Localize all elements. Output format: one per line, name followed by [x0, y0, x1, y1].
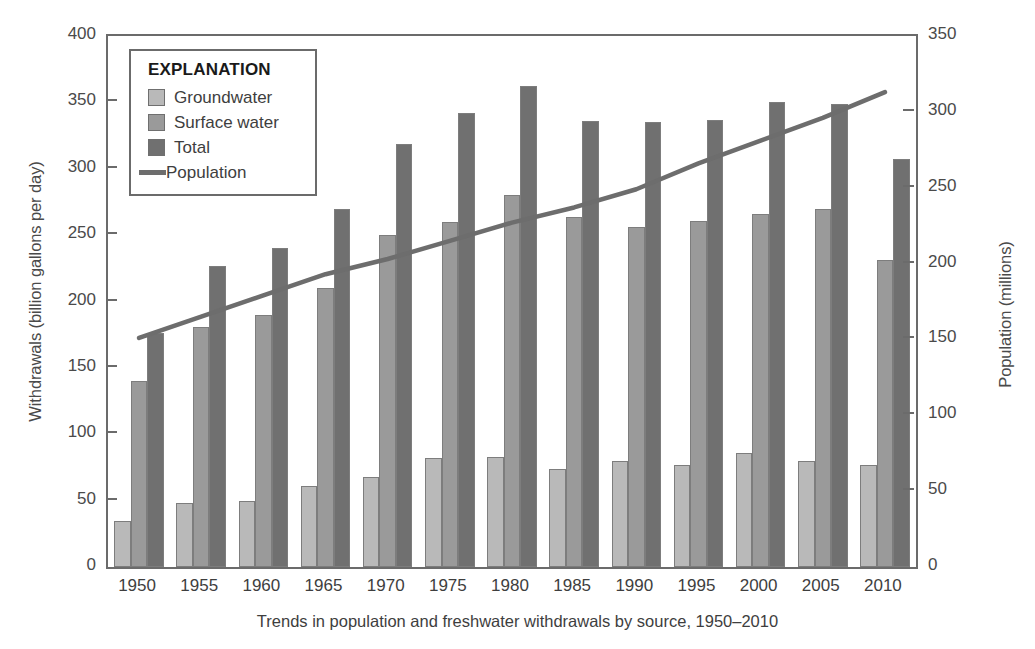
- x-axis-tick-label: 1950: [102, 576, 172, 596]
- tick-mark: [106, 99, 117, 101]
- bar-surface-water: [752, 214, 769, 567]
- y-axis-left-tick-label: 400: [36, 25, 96, 42]
- bar-surface-water: [131, 381, 148, 567]
- tick-mark: [903, 261, 914, 263]
- bar-groundwater: [487, 457, 504, 567]
- bar-total: [582, 121, 599, 567]
- tick-mark: [903, 109, 914, 111]
- x-axis-tick-label: 1955: [164, 576, 234, 596]
- y-axis-right-tick-label: 250: [928, 177, 988, 194]
- bar-total: [209, 266, 226, 567]
- y-axis-left-tick-label: 200: [36, 291, 96, 308]
- chart-caption: Trends in population and freshwater with…: [0, 612, 1035, 631]
- y-axis-left-tick-label: 150: [36, 357, 96, 374]
- bar-groundwater: [114, 521, 131, 567]
- legend-item-label: Groundwater: [174, 88, 272, 108]
- x-axis-tick-label: 1970: [351, 576, 421, 596]
- y-axis-right-tick-label: 350: [928, 25, 988, 42]
- x-axis-tick-label: 1965: [289, 576, 359, 596]
- legend-swatch-total: [148, 139, 165, 156]
- y-axis-right-tick-label: 300: [928, 101, 988, 118]
- bar-surface-water: [690, 221, 707, 567]
- bar-total: [396, 144, 413, 567]
- y-axis-right-tick-label: 100: [928, 404, 988, 421]
- tick-mark: [106, 232, 117, 234]
- legend-swatch-groundwater: [148, 89, 165, 106]
- bar-groundwater: [549, 469, 566, 567]
- bar-surface-water: [255, 315, 272, 567]
- legend-item-label: Population: [166, 163, 246, 183]
- bar-total: [707, 120, 724, 567]
- y-axis-right-tick-label: 150: [928, 328, 988, 345]
- y-axis-right-tick-label: 200: [928, 253, 988, 270]
- legend-items: GroundwaterSurface waterTotalPopulation: [148, 85, 315, 185]
- x-axis-tick-label: 2000: [724, 576, 794, 596]
- tick-mark: [106, 166, 117, 168]
- bar-groundwater: [612, 461, 629, 567]
- x-axis-tick-label: 1980: [475, 576, 545, 596]
- tick-mark: [106, 498, 117, 500]
- bar-groundwater: [674, 465, 691, 567]
- bar-surface-water: [504, 195, 521, 567]
- tick-mark: [106, 365, 117, 367]
- bar-surface-water: [877, 260, 894, 567]
- bar-total: [893, 159, 910, 567]
- legend-item-label: Surface water: [174, 113, 279, 133]
- y-axis-left-tick-label: 350: [36, 91, 96, 108]
- bar-groundwater: [425, 458, 442, 567]
- bar-total: [147, 333, 164, 567]
- bar-groundwater: [798, 461, 815, 567]
- y-axis-left-tick-label: 250: [36, 224, 96, 241]
- bar-surface-water: [628, 227, 645, 567]
- bar-surface-water: [566, 217, 583, 567]
- legend-title: EXPLANATION: [148, 60, 315, 80]
- x-axis-tick-label: 1960: [226, 576, 296, 596]
- bar-surface-water: [442, 222, 459, 567]
- bar-groundwater: [363, 477, 380, 567]
- tick-mark: [106, 431, 117, 433]
- bar-total: [831, 104, 848, 567]
- bar-groundwater: [860, 465, 877, 567]
- tick-mark: [903, 185, 914, 187]
- legend-box: EXPLANATION GroundwaterSurface waterTota…: [129, 49, 317, 196]
- bar-total: [458, 113, 475, 567]
- bar-total: [769, 102, 786, 567]
- tick-mark: [903, 488, 914, 490]
- tick-mark: [903, 336, 914, 338]
- x-axis-tick-label: 1975: [413, 576, 483, 596]
- x-axis-tick-label: 1995: [661, 576, 731, 596]
- y-axis-left-tick-label: 50: [36, 490, 96, 507]
- bar-surface-water: [815, 209, 832, 567]
- y-axis-left-tick-label: 100: [36, 423, 96, 440]
- tick-mark: [106, 299, 117, 301]
- x-axis-tick-label: 1990: [599, 576, 669, 596]
- bar-total: [334, 209, 351, 567]
- x-axis-tick-label: 2005: [786, 576, 856, 596]
- y-axis-right-tick-label: 0: [928, 556, 988, 573]
- legend-item: Surface water: [148, 110, 315, 135]
- legend-item: Total: [148, 135, 315, 160]
- legend-item: Population: [148, 160, 315, 185]
- chart-figure: Withdrawals (billion gallons per day) Po…: [0, 0, 1035, 649]
- bar-groundwater: [176, 503, 193, 567]
- bar-surface-water: [193, 327, 210, 567]
- legend-line-marker: [139, 170, 166, 175]
- bar-groundwater: [736, 453, 753, 567]
- y-axis-right-tick-label: 50: [928, 480, 988, 497]
- legend-item: Groundwater: [148, 85, 315, 110]
- y-axis-left-tick-label: 0: [36, 556, 96, 573]
- bar-total: [272, 248, 289, 567]
- tick-mark: [903, 412, 914, 414]
- y-axis-left-tick-label: 300: [36, 158, 96, 175]
- x-axis-tick-label: 2010: [848, 576, 918, 596]
- bar-total: [645, 122, 662, 567]
- y-axis-right-title: Population (millions): [996, 105, 1015, 525]
- legend-item-label: Total: [174, 138, 210, 158]
- bar-surface-water: [379, 235, 396, 567]
- legend-swatch-surface: [148, 114, 165, 131]
- bar-groundwater: [301, 486, 318, 567]
- bar-groundwater: [239, 501, 256, 567]
- x-axis-tick-label: 1985: [537, 576, 607, 596]
- bar-total: [520, 86, 537, 567]
- bar-surface-water: [317, 288, 334, 567]
